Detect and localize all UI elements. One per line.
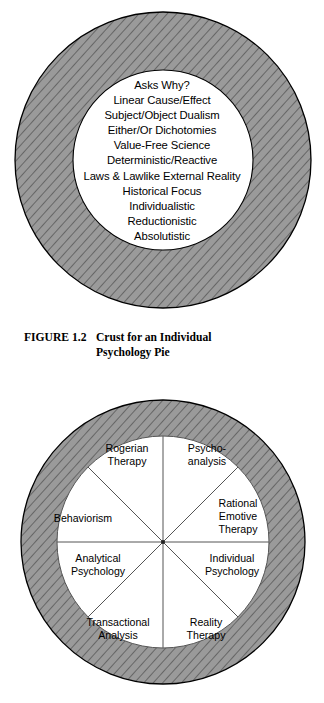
crust-text-list: Asks Why? Linear Cause/Effect Subject/Ob… (0, 78, 324, 244)
figure-stack: Asks Why? Linear Cause/Effect Subject/Ob… (0, 0, 324, 703)
crust-line-1: Asks Why? (0, 78, 324, 93)
pie-slice-psychoanalysis: Psycho- analysis (168, 442, 246, 468)
pie-slice-behaviorism: Behaviorism (36, 512, 130, 525)
crust-line-4: Either/Or Dichotomies (0, 123, 324, 138)
crust-donut-figure: Asks Why? Linear Cause/Effect Subject/Ob… (0, 0, 324, 318)
figure-caption-text: Crust for an IndividualPsychology Pie (96, 330, 296, 360)
pie-slice-analytical-psychology: Analytical Psychology (52, 552, 144, 578)
crust-line-8: Historical Focus (0, 184, 324, 199)
figure-caption: FIGURE 1.2Crust for an IndividualPsychol… (24, 330, 314, 360)
pie-slice-rational-emotive-therapy: Rational Emotive Therapy (198, 497, 278, 537)
pie-slice-individual-psychology: Individual Psychology (186, 552, 278, 578)
crust-line-11: Absolutistic (0, 229, 324, 244)
crust-line-6: Deterministic/Reactive (0, 153, 324, 168)
figure-caption-line-1: Crust for an Individual (96, 331, 211, 344)
crust-line-2: Linear Cause/Effect (0, 93, 324, 108)
crust-line-3: Subject/Object Dualism (0, 108, 324, 123)
pie-slice-rogerian-therapy: Rogerian Therapy (88, 442, 166, 468)
crust-line-5: Value-Free Science (0, 138, 324, 153)
pie-center-dot (161, 540, 165, 544)
pie-slice-reality-therapy: Reality Therapy (168, 616, 244, 642)
crust-line-7: Laws & Lawlike External Reality (0, 169, 324, 184)
therapy-pie-graphic (0, 392, 324, 692)
pie-slice-transactional-analysis: Transactional Analysis (72, 616, 164, 642)
therapy-pie-figure: Rogerian Therapy Psycho- analysis Behavi… (0, 392, 324, 692)
crust-line-9: Individualistic (0, 199, 324, 214)
figure-caption-label: FIGURE 1.2 (24, 330, 96, 345)
figure-caption-line-2: Psychology Pie (96, 346, 170, 359)
crust-line-10: Reductionistic (0, 214, 324, 229)
